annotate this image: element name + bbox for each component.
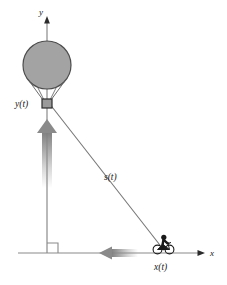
x-axis-arrowhead <box>198 250 206 256</box>
x-axis-label: x <box>209 248 214 258</box>
cyclist-position-label: x(t) <box>153 262 167 273</box>
diagram-svg: y x y(t) x(t) s(t) <box>0 0 227 285</box>
cyclist-on-bicycle-icon <box>153 235 174 254</box>
hypotenuse-label: s(t) <box>104 172 117 183</box>
cyclist-motion-arrow-left <box>99 247 138 260</box>
right-angle-marker <box>47 243 58 253</box>
figure-canvas: y x y(t) x(t) s(t) <box>0 0 227 285</box>
balloon-height-label: y(t) <box>14 99 28 110</box>
balloon-basket-icon <box>42 99 52 108</box>
balloon-motion-arrow-up <box>37 119 57 188</box>
y-axis-label: y <box>38 7 43 17</box>
y-axis-arrowhead <box>44 16 50 24</box>
